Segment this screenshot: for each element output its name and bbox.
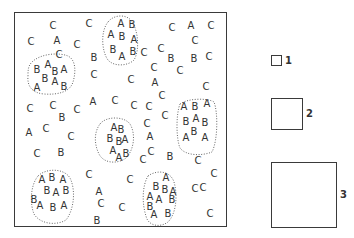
quadrat-box-3 [271,162,337,228]
letter-b: B [44,186,51,196]
letter-c: C [50,21,57,31]
letter-b: B [58,148,65,158]
letter-b: B [130,47,137,57]
letter-b: B [94,216,101,226]
letter-c: C [43,124,50,134]
letter-a: A [96,187,103,197]
letter-a: A [131,35,138,45]
letter-a: A [39,175,46,185]
letter-a: A [147,132,154,142]
letter-b: B [129,20,136,30]
letter-c: C [86,19,93,29]
letter-b: B [119,32,126,42]
letter-c: C [28,37,35,47]
letter-c: C [207,209,214,219]
letter-b: B [110,45,117,55]
letter-b: B [34,65,41,75]
letter-b: B [162,185,169,195]
letter-b: B [49,173,56,183]
letter-c: C [146,102,153,112]
letter-b: B [191,54,198,64]
letter-a: A [193,114,200,124]
letter-a: A [119,52,126,62]
letter-c: C [211,169,218,179]
letter-b: B [191,127,198,137]
letter-c: C [140,155,147,165]
letter-c: C [192,36,199,46]
letter-a: A [151,210,158,220]
letter-a: A [34,83,41,93]
letter-b: B [192,102,199,112]
letter-c: C [162,111,169,121]
letter-c: C [50,101,57,111]
letter-b: B [107,134,114,144]
letter-c: C [158,44,165,54]
letter-b: B [169,195,176,205]
letter-b: B [167,152,174,162]
letter-a: A [61,201,68,211]
letter-c: C [127,175,134,185]
letter-c: C [151,63,158,73]
letter-a: A [37,201,44,211]
letter-a: A [26,128,33,138]
letter-a: A [116,153,123,163]
letter-b: B [59,113,66,123]
letter-c: C [98,199,105,209]
letter-a: A [45,60,52,70]
letter-a: A [152,78,159,88]
letter-b: B [91,53,98,63]
letter-c: C [195,156,202,166]
letter-b: B [202,118,209,128]
letter-c: C [74,105,81,115]
letter-a: A [54,36,61,46]
letter-c: C [208,21,215,31]
letter-c: C [141,48,148,58]
letter-c: C [144,119,151,129]
letter-a: A [204,99,211,109]
quadrat-box-2 [271,98,303,130]
letter-a: A [90,97,97,107]
letter-c: C [192,184,199,194]
letter-c: C [177,66,184,76]
letter-b: B [123,149,130,159]
letter-a: A [111,123,118,133]
quadrat-box-1 [271,55,282,66]
letter-a: A [108,30,115,40]
letter-c: C [131,101,138,111]
letter-b: B [168,54,175,64]
quadrat-label-3: 3 [340,190,347,200]
letter-b: B [42,74,49,84]
letter-b: B [153,182,160,192]
letter-c: C [203,82,210,92]
letter-a: A [52,77,59,87]
quadrat-label-1: 1 [285,56,292,66]
letter-c: C [128,75,135,85]
letter-c: C [200,183,207,193]
letter-c: C [91,70,98,80]
letter-a: A [61,65,68,75]
letter-c: C [206,52,213,62]
quadrat-label-2: 2 [306,109,313,119]
letter-a: A [53,188,60,198]
letter-a: A [202,133,209,143]
letter-c: C [119,203,126,213]
letter-b: B [165,209,172,219]
letter-c: C [159,91,166,101]
letter-b: B [63,186,70,196]
letter-c: C [74,40,81,50]
letter-b: B [61,82,68,92]
letter-a: A [183,133,190,143]
letter-a: A [156,195,163,205]
letter-c: C [86,170,93,180]
letter-b: B [50,203,57,213]
letter-c: C [148,147,155,157]
pattern-diagram: CCCACCBCBABABABAABABABABCCCACCBBCCCCACCC… [0,0,354,238]
letter-c: C [169,23,176,33]
letter-c: C [27,104,34,114]
letter-c: C [56,50,63,60]
letter-a: A [118,19,125,29]
letter-a: A [163,173,170,183]
letter-c: C [68,132,75,142]
letter-a: A [181,102,188,112]
letter-c: C [112,96,119,106]
